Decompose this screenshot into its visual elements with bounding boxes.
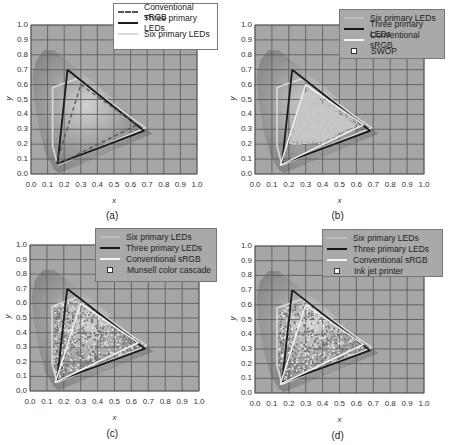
legend-entry: Conventional sRGB bbox=[327, 254, 438, 265]
legend-entry: Three primary LEDs bbox=[327, 243, 438, 254]
x-tick-label: 0.1 bbox=[264, 400, 280, 408]
x-tick-label: 0.3 bbox=[298, 400, 314, 408]
panel-caption: (d) bbox=[332, 430, 344, 441]
y-tick-label: 0.3 bbox=[236, 345, 252, 353]
x-tick-label: 0.5 bbox=[332, 400, 348, 408]
legend-entry: Six primary LEDs bbox=[327, 232, 438, 243]
y-tick-label: 0.9 bbox=[236, 257, 252, 265]
y-tick-label: 0.5 bbox=[236, 316, 252, 324]
y-tick-label: 0.6 bbox=[236, 301, 252, 309]
square-marker-icon bbox=[334, 268, 340, 274]
y-tick-label: 0.2 bbox=[236, 360, 252, 368]
x-tick-label: 0.6 bbox=[348, 400, 364, 408]
x-tick-label: 0.9 bbox=[399, 400, 415, 408]
chart-legend: Six primary LEDsThree primary LEDsConven… bbox=[322, 229, 443, 277]
line-swatch-icon bbox=[327, 237, 347, 239]
x-tick-label: 1.0 bbox=[416, 400, 432, 408]
y-tick-label: 0.8 bbox=[236, 271, 252, 279]
x-tick-label: 0.4 bbox=[315, 400, 331, 408]
x-tick-label: 0.2 bbox=[281, 400, 297, 408]
y-tick-label: 0.4 bbox=[236, 330, 252, 338]
x-axis-label: x bbox=[338, 415, 342, 424]
y-tick-label: 1.0 bbox=[236, 242, 252, 250]
legend-label: Three primary LEDs bbox=[353, 244, 429, 254]
y-tick-label: 0.7 bbox=[236, 286, 252, 294]
legend-entry: Ink jet printer bbox=[327, 265, 438, 276]
legend-label: Conventional sRGB bbox=[353, 255, 428, 265]
x-tick-label: 0.8 bbox=[382, 400, 398, 408]
x-tick-label: 0.7 bbox=[365, 400, 381, 408]
plot-area bbox=[0, 0, 451, 445]
line-swatch-icon bbox=[327, 259, 347, 261]
y-tick-label: 0.0 bbox=[236, 389, 252, 397]
y-axis-label: y bbox=[228, 316, 237, 320]
x-tick-label: 0.0 bbox=[247, 400, 263, 408]
legend-label: Ink jet printer bbox=[354, 266, 403, 276]
y-tick-label: 0.1 bbox=[236, 374, 252, 382]
legend-label: Six primary LEDs bbox=[353, 233, 419, 243]
line-swatch-icon bbox=[327, 248, 347, 250]
